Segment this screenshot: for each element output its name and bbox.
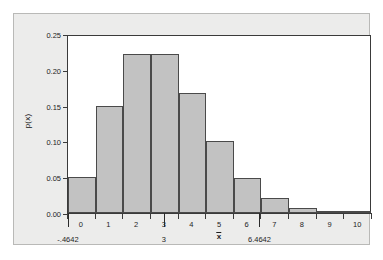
y-axis-title: p(x) <box>23 114 32 129</box>
x-axis-tick-label: 5 <box>217 220 221 229</box>
y-axis-tick-label: 0.05 <box>46 174 61 183</box>
x-axis-tick <box>95 213 96 219</box>
x-axis-tick <box>343 213 344 219</box>
y-axis-tick-label: 0.00 <box>46 210 61 219</box>
x-axis-tick-label: 4 <box>189 220 193 229</box>
y-axis-tick <box>63 107 67 108</box>
y-axis-tick <box>63 35 67 36</box>
plot-area <box>67 35 371 214</box>
x-axis-tick-label: 2 <box>134 220 138 229</box>
x-axis-tick <box>316 213 317 219</box>
x-bar-symbol: x <box>216 232 221 241</box>
x-axis-tick-label: 10 <box>353 220 361 229</box>
x-axis-tick <box>260 213 261 219</box>
scan-artifact-text <box>28 0 148 6</box>
x-axis-annotation-lower-bound: -.4642 <box>57 235 78 244</box>
x-axis-tick-label: 9 <box>327 220 331 229</box>
y-axis-tick <box>63 142 67 143</box>
histogram-bar <box>68 177 96 213</box>
x-axis-tick-label: 0 <box>79 220 83 229</box>
x-axis-tick <box>150 213 151 219</box>
histogram-bar <box>234 178 262 213</box>
x-axis-marker-tick <box>164 213 165 227</box>
y-axis-tick-label: 0.20 <box>46 66 61 75</box>
x-axis-tick <box>371 213 372 219</box>
x-axis-tick <box>178 213 179 219</box>
x-axis-tick <box>122 213 123 219</box>
x-axis-tick-label: 1 <box>106 220 110 229</box>
x-axis-tick <box>205 213 206 219</box>
x-axis-tick-label: 7 <box>272 220 276 229</box>
y-axis-tick-label: 0.15 <box>46 102 61 111</box>
x-axis-marker-tick <box>68 213 69 227</box>
histogram-bar <box>123 54 151 213</box>
histogram-bar <box>151 54 179 213</box>
x-axis-tick <box>288 213 289 219</box>
x-axis-annotation-upper-bound: 6.4642 <box>248 235 271 244</box>
x-axis-tick-label: 6 <box>245 220 249 229</box>
x-axis-marker-tick <box>259 213 260 227</box>
figure-frame: 0.250.200.150.100.050.00 p(x) 0123456789… <box>13 13 370 245</box>
histogram-bar <box>179 93 207 213</box>
y-axis-tick-label: 0.25 <box>46 31 61 40</box>
x-axis-annotation-mean: 3 <box>162 235 166 244</box>
histogram-bar <box>206 141 234 213</box>
y-axis-tick <box>63 71 67 72</box>
histogram-bar <box>261 198 289 213</box>
histogram-bar <box>96 106 124 213</box>
histogram-bars <box>68 35 370 213</box>
x-axis: 012345678910-.46423x6.4642 <box>67 213 377 253</box>
y-axis-tick <box>63 178 67 179</box>
x-axis-tick-label: 8 <box>300 220 304 229</box>
y-axis-tick-label: 0.10 <box>46 138 61 147</box>
x-axis-tick <box>233 213 234 219</box>
plot-clip <box>67 35 371 214</box>
